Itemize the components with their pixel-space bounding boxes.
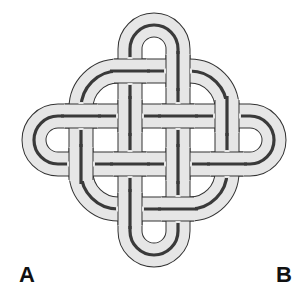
celtic-knot-diagram (0, 0, 296, 293)
strand-base (34, 25, 274, 255)
label-b: B (276, 264, 292, 286)
label-a: A (19, 264, 35, 286)
